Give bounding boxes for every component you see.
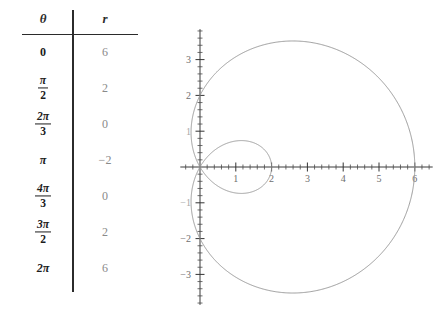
table-header-theta: θ [16, 11, 70, 27]
fraction-numerator: π [38, 74, 48, 86]
y-tick-label: −2 [180, 233, 191, 244]
y-tick-label: 1 [186, 126, 191, 137]
table-row: 2π6 [0, 251, 160, 285]
table-cell-r: 6 [78, 262, 132, 274]
fraction-bar [35, 196, 51, 197]
table-cell-theta: π2 [16, 74, 70, 101]
table-cell-r: 2 [78, 82, 132, 94]
y-tick-label: −1 [180, 197, 191, 208]
fraction-bar [35, 232, 51, 233]
table-row: 2π30 [0, 107, 160, 141]
fraction-bar [35, 124, 51, 125]
fraction: 4π3 [35, 182, 51, 209]
y-tick-label: 2 [186, 90, 191, 101]
table-row: π22 [0, 71, 160, 105]
theta-value: 2π [37, 261, 50, 275]
fraction-numerator: 3π [35, 218, 51, 230]
table-cell-theta: 0 [16, 46, 70, 58]
x-tick-label: 5 [377, 173, 382, 184]
table-row: π−2 [0, 143, 160, 177]
table-row: 4π30 [0, 179, 160, 213]
table-cell-r: 2 [78, 226, 132, 238]
polar-value-table: θ r 06π222π30π−24π303π222π6 [0, 0, 160, 310]
table-cell-theta: 3π2 [16, 218, 70, 245]
fraction: 2π3 [35, 110, 51, 137]
table-cell-r: −2 [78, 154, 132, 166]
fraction-denominator: 3 [35, 126, 51, 138]
fraction-numerator: 4π [35, 182, 51, 194]
fraction-numerator: 2π [35, 110, 51, 122]
fraction-denominator: 2 [35, 234, 51, 246]
theta-value: π [40, 153, 47, 167]
x-tick-label: 1 [233, 173, 238, 184]
table-cell-r: 6 [78, 46, 132, 58]
x-tick-label: 3 [305, 173, 310, 184]
table-cell-r: 0 [78, 190, 132, 202]
table-header-r: r [78, 11, 132, 27]
table-cell-theta: 4π3 [16, 182, 70, 209]
fraction: π2 [38, 74, 48, 101]
polar-plot: 123456321−1−2−3 [160, 0, 438, 310]
table-cell-theta: 2π3 [16, 110, 70, 137]
figure-root: θ r 06π222π30π−24π303π222π6 123456321−1−… [0, 0, 438, 310]
table-row: 06 [0, 35, 160, 69]
plot-canvas: 123456321−1−2−3 [160, 0, 438, 310]
y-tick-label: 3 [186, 54, 191, 65]
table-cell-theta: 2π [16, 262, 70, 274]
table-row: 3π22 [0, 215, 160, 249]
theta-value: 0 [40, 45, 46, 59]
fraction: 3π2 [35, 218, 51, 245]
x-tick-label: 4 [341, 173, 346, 184]
table-cell-theta: π [16, 154, 70, 166]
table-cell-r: 0 [78, 118, 132, 130]
y-tick-label: −3 [180, 269, 191, 280]
fraction-denominator: 2 [38, 90, 48, 102]
fraction-bar [38, 88, 48, 89]
fraction-denominator: 3 [35, 198, 51, 210]
